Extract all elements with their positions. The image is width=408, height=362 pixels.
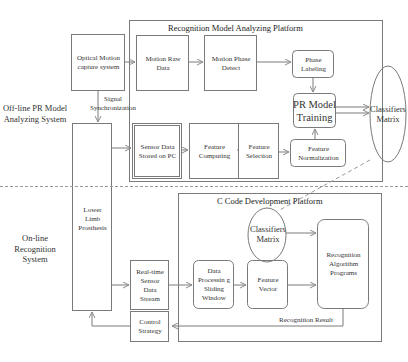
online-system-label: On-line Recognition System [2,233,68,265]
optical-motion-node: Optical Motion capture system [72,35,125,91]
data-processing-node: Data Processin g Sliding Window [194,261,234,309]
feature-selection-node: Feature Selection [239,124,279,179]
recognition-programs-node: Recognition Algorithm Programs [318,220,369,309]
realtime-stream-label: Real-time Sensor Data Stream [136,268,164,304]
recognition-programs-label: Recognition Algorithm Programs [324,251,363,278]
recognition-result-label: Recognition Result [270,316,342,325]
motion-raw-label: Motion Raw Data [145,55,181,73]
offline-system-label: Off-line PR Model Analyzing System [2,103,68,124]
feature-vector-node: Feature Vector [248,261,288,309]
motion-raw-node: Motion Raw Data [137,36,189,91]
classifiers-label-1: Classifiers Matrix [368,104,408,125]
c-code-platform-title: C Code Development Platform [217,196,323,206]
feature-selection-label: Feature Selection [239,143,279,161]
phase-labeling-node: Phase Labeling [293,51,334,78]
phase-labeling-label: Phase Labeling [299,56,328,74]
signal-sync-label: Signal Synchronization [82,95,144,113]
recognition-platform-title: Recognition Model Analyzing Platform [168,23,303,33]
prosthesis-node: Lower Limb Prosthesis [73,206,112,233]
feature-computing-node: Feature Computing [190,124,239,179]
control-strategy-node: Control Strategy [131,312,169,342]
feature-normalization-node: Feature Normalization [291,140,346,167]
sensor-data-label: Sensor Data Stored on PC [136,143,179,161]
sensor-data-node: Sensor Data Stored on PC [133,124,182,179]
classifiers-node-1: Classifiers Matrix [368,96,408,132]
data-processing-label: Data Processin g Sliding Window [196,267,232,303]
classifiers-label-2: Classifiers Matrix [248,224,288,245]
motion-phase-node: Motion Phase Detect [205,36,257,91]
optical-motion-label: Optical Motion capture system [72,54,125,72]
motion-phase-label: Motion Phase Detect [209,55,253,73]
feature-vector-label: Feature Vector [254,276,282,294]
realtime-stream-node: Real-time Sensor Data Stream [131,261,169,310]
classifiers-node-2: Classifiers Matrix [248,216,288,252]
feature-normalization-label: Feature Normalization [298,145,338,163]
feature-computing-label: Feature Computing [194,143,235,161]
pr-model-label: PR Model Training [293,98,336,124]
control-strategy-label: Control Strategy [136,318,164,336]
pr-model-node: PR Model Training [293,94,336,128]
prosthesis-label: Lower Limb Prosthesis [78,206,106,232]
